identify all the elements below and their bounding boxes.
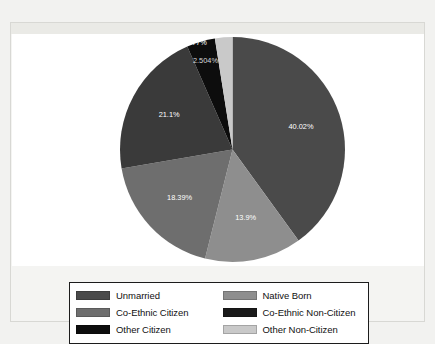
legend-item-label: Co-Ethnic Citizen xyxy=(116,307,189,318)
legend-item-label: Co-Ethnic Non-Citizen xyxy=(263,307,356,318)
pie-slice-value-label: 40.02% xyxy=(288,122,313,131)
legend-item: Unmarried xyxy=(76,287,217,304)
legend-item-label: Other Citizen xyxy=(116,324,171,335)
pie-slices xyxy=(120,37,345,262)
legend-item: Co-Ethnic Citizen xyxy=(76,304,217,321)
pie-slice-value-label: 4.077% xyxy=(182,38,207,47)
legend-color-swatch xyxy=(223,308,257,317)
legend-item-label: Unmarried xyxy=(116,290,160,301)
legend-color-swatch xyxy=(76,325,110,334)
figure-frame: 40.02%13.9%18.39%21.1%4.077%2.504% Unmar… xyxy=(10,22,425,322)
legend-color-swatch xyxy=(76,308,110,317)
legend-item: Other Citizen xyxy=(76,321,217,338)
legend-color-swatch xyxy=(223,291,257,300)
legend-item-label: Native Born xyxy=(263,290,312,301)
pie-chart-svg: 40.02%13.9%18.39%21.1%4.077%2.504% xyxy=(119,36,346,263)
scan-artifact-band xyxy=(11,23,424,34)
pie-slice-value-label: 18.39% xyxy=(167,193,192,202)
plot-panel: 40.02%13.9%18.39%21.1%4.077%2.504% xyxy=(12,34,424,266)
legend-item: Native Born xyxy=(223,287,364,304)
legend-item: Other Non-Citizen xyxy=(223,321,364,338)
legend-item-label: Other Non-Citizen xyxy=(263,324,338,335)
legend-item: Co-Ethnic Non-Citizen xyxy=(223,304,364,321)
legend-color-swatch xyxy=(76,291,110,300)
pie-chart: 40.02%13.9%18.39%21.1%4.077%2.504% xyxy=(119,36,346,263)
pie-slice-value-label: 13.9% xyxy=(235,213,256,222)
legend-color-swatch xyxy=(223,325,257,334)
pie-slice-value-label: 2.504% xyxy=(193,56,218,65)
legend: UnmarriedNative BornCo-Ethnic CitizenCo-… xyxy=(69,282,369,344)
pie-slice-value-label: 21.1% xyxy=(159,110,180,119)
